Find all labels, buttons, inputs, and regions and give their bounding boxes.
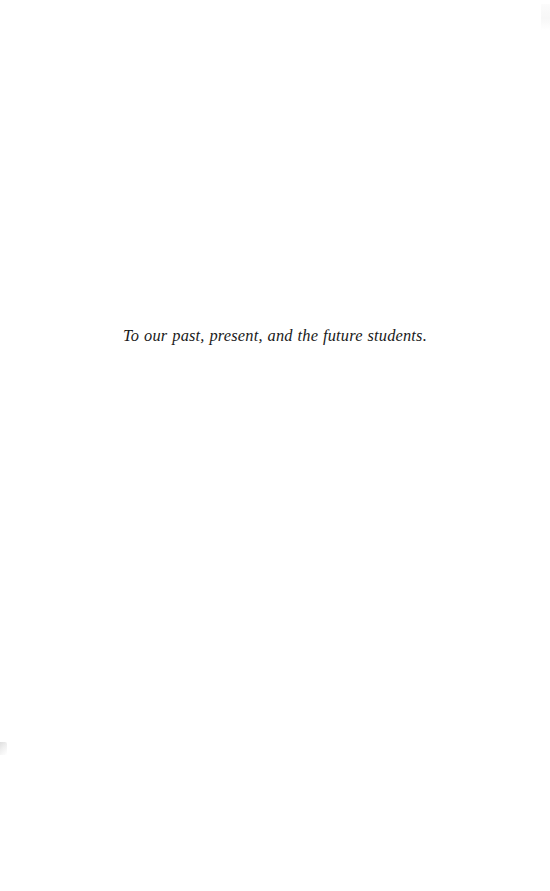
scan-artifact-right-edge xyxy=(541,4,550,30)
scan-artifact-left-edge xyxy=(0,742,7,755)
document-page: To our past, present, and the future stu… xyxy=(0,0,550,891)
dedication-block: To our past, present, and the future stu… xyxy=(0,309,550,364)
dedication-text: To our past, present, and the future stu… xyxy=(123,325,427,347)
